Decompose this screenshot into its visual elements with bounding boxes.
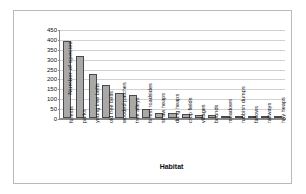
y-tick-mark <box>58 60 60 61</box>
x-tick-label: crop fields <box>188 98 194 124</box>
x-tick-label: straw heaps <box>161 93 167 123</box>
x-tick-label: villages <box>201 104 207 123</box>
y-tick-label: 150 <box>35 86 57 92</box>
y-tick-mark <box>58 40 60 41</box>
x-tick-label: young tree belts <box>95 83 101 123</box>
gridline <box>60 30 285 31</box>
x-tick-label: fallows <box>254 106 260 123</box>
x-tick-label: wooded patches <box>122 82 128 123</box>
plot-area: 050100150200250300350400450 forestsparks… <box>59 30 284 119</box>
y-tick-label: 250 <box>35 67 57 73</box>
x-tick-label: forest roadsides <box>148 83 154 123</box>
x-tick-label: dung heaps <box>175 94 181 123</box>
y-tick-mark <box>58 99 60 100</box>
y-tick-label: 50 <box>35 106 57 112</box>
y-tick-mark <box>58 50 60 51</box>
y-tick-mark <box>58 109 60 110</box>
gridline <box>60 70 285 71</box>
x-axis-title: Habitat <box>59 163 284 170</box>
x-tick-label: parks <box>82 109 88 123</box>
x-tick-label: tree alleys <box>135 98 141 124</box>
y-tick-label: 100 <box>35 96 57 102</box>
y-tick-label: 350 <box>35 47 57 53</box>
x-tick-label: meadows <box>228 99 234 123</box>
x-tick-label: hay heaps <box>281 97 287 123</box>
gridline <box>60 40 285 41</box>
y-tick-label: 300 <box>35 57 57 63</box>
y-tick-label: 0 <box>35 116 57 122</box>
y-tick-mark <box>58 70 60 71</box>
y-tick-mark <box>58 30 60 31</box>
y-tick-label: 200 <box>35 76 57 82</box>
y-tick-label: 400 <box>35 37 57 43</box>
gridline <box>60 50 285 51</box>
y-tick-mark <box>58 89 60 90</box>
y-tick-label: 450 <box>35 27 57 33</box>
x-tick-label: rubbish dumps <box>241 86 247 123</box>
gridline <box>60 60 285 61</box>
x-tick-label: old tree belts <box>109 91 115 123</box>
y-axis-title: Number of species <box>66 18 78 118</box>
y-tick-mark <box>58 79 60 80</box>
x-tick-label: bounds <box>214 105 220 123</box>
chart-frame: 050100150200250300350400450 forestsparks… <box>13 10 292 184</box>
x-tick-label: railways <box>267 103 273 123</box>
x-tick-mark <box>60 118 61 120</box>
